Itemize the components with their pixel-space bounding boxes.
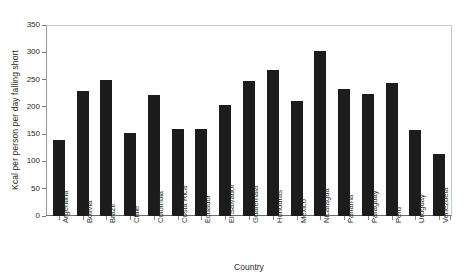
- x-axis-label: Uruguay: [418, 194, 426, 223]
- y-axis-ticks: 050100150200250300350: [0, 0, 46, 277]
- x-axis-tick-mark: [83, 216, 84, 220]
- x-axis-label: Peru: [395, 207, 403, 223]
- x-axis-label-slot: Honduras: [261, 221, 285, 267]
- x-axis-tick-mark: [368, 216, 369, 220]
- y-axis-tick-label: 300: [27, 46, 40, 58]
- bar-slot: [71, 25, 95, 216]
- y-axis-tick-label: 200: [27, 101, 40, 113]
- bar[interactable]: [386, 83, 398, 216]
- x-axis-label: Mexico: [300, 199, 308, 223]
- x-axis-label-slot: Guatemala: [237, 221, 261, 267]
- x-axis-labels: ArgentinaBoliviaBrazilChileColombiaCosta…: [47, 221, 451, 267]
- bar-slot: [142, 25, 166, 216]
- x-axis-label: Argentina: [62, 190, 70, 223]
- x-axis-title: Country: [46, 262, 452, 272]
- bar-slot: [356, 25, 380, 216]
- x-axis-label: Honduras: [276, 190, 284, 223]
- x-axis-tick-mark: [344, 216, 345, 220]
- x-axis-tick-mark: [273, 216, 274, 220]
- x-axis-label-slot: Brazil: [95, 221, 119, 267]
- bar-chart: Kcal per person per day falling short 05…: [0, 0, 473, 277]
- x-axis-tick-mark: [450, 216, 451, 220]
- x-axis-label-slot: Panama: [332, 221, 356, 267]
- x-axis-label-slot: Peru: [380, 221, 404, 267]
- x-axis-label-slot: Venezuela: [427, 221, 451, 267]
- bar[interactable]: [124, 133, 136, 216]
- y-axis-tick-label: 50: [31, 183, 40, 195]
- x-axis-label: Nicaragua: [323, 188, 331, 223]
- y-axis-tick-label: 0: [36, 210, 40, 222]
- y-axis-tick-label: 150: [27, 128, 40, 140]
- y-axis-tick-label: 350: [27, 19, 40, 31]
- bar-slot: [47, 25, 71, 216]
- bar[interactable]: [100, 80, 112, 216]
- x-axis-tick-mark: [392, 216, 393, 220]
- x-axis-label-slot: El Salvador: [213, 221, 237, 267]
- x-axis-tick-mark: [154, 216, 155, 220]
- x-axis-tick-mark: [297, 216, 298, 220]
- y-axis-tick-label: 100: [27, 155, 40, 167]
- x-axis-label: Venezuela: [442, 188, 450, 223]
- bar-slot: [332, 25, 356, 216]
- x-axis-label: Panama: [347, 195, 355, 223]
- x-axis-label-slot: Chile: [118, 221, 142, 267]
- bar-slot: [95, 25, 119, 216]
- x-axis-label-slot: Ecuador: [190, 221, 214, 267]
- x-axis-label-slot: Mexico: [285, 221, 309, 267]
- x-axis-label: Costa Rica: [181, 186, 189, 223]
- x-axis-label: El Salvador: [228, 184, 236, 223]
- x-axis-label: Ecuador: [204, 195, 212, 223]
- x-axis-tick-mark: [249, 216, 250, 220]
- x-axis-label-slot: Colombia: [142, 221, 166, 267]
- x-axis-label: Colombia: [157, 191, 165, 223]
- bars-layer: [47, 25, 451, 216]
- x-axis-label-slot: Costa Rica: [166, 221, 190, 267]
- x-axis-label-slot: Argentina: [47, 221, 71, 267]
- bar-slot: [403, 25, 427, 216]
- bar-slot: [118, 25, 142, 216]
- x-axis-label-slot: Nicaragua: [308, 221, 332, 267]
- x-axis-tick-mark: [439, 216, 440, 220]
- x-axis-label-slot: Uruguay: [403, 221, 427, 267]
- y-axis-tick-label: 250: [27, 74, 40, 86]
- bar-slot: [285, 25, 309, 216]
- x-axis-tick-mark: [59, 216, 60, 220]
- bar[interactable]: [77, 91, 89, 216]
- bar-slot: [380, 25, 404, 216]
- x-axis-label: Guatemala: [252, 186, 260, 223]
- x-axis-label-slot: Bolivia: [71, 221, 95, 267]
- x-axis-label: Bolivia: [86, 201, 94, 223]
- x-axis-label: Chile: [133, 206, 141, 223]
- x-axis-label: Paraguay: [371, 190, 379, 223]
- bar-slot: [261, 25, 285, 216]
- x-axis-label: Brazil: [109, 204, 117, 223]
- x-axis-label-slot: Paraguay: [356, 221, 380, 267]
- bar-slot: [190, 25, 214, 216]
- x-axis-tick-mark: [178, 216, 179, 220]
